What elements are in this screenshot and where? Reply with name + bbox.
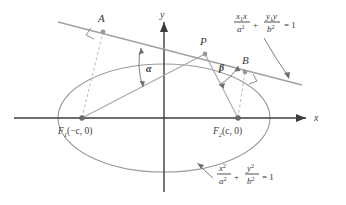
point-b-dot bbox=[243, 70, 248, 75]
perpendicular-f2-b bbox=[238, 72, 245, 118]
focus-f1-dot bbox=[79, 115, 84, 120]
focus-f1-label: F1(−c, 0) bbox=[57, 126, 92, 138]
ellipse-den1-sup: 2 bbox=[224, 176, 227, 182]
ellipse-den2-sup: 2 bbox=[252, 176, 255, 182]
ellipse-eq-equals: = 1 bbox=[262, 172, 274, 182]
tangent-line bbox=[58, 22, 302, 85]
ellipse-eq-denominator-2: b2 bbox=[247, 176, 255, 186]
x-axis-label: x bbox=[313, 112, 319, 123]
tangent-equation-leader bbox=[264, 38, 288, 76]
point-a-dot bbox=[101, 30, 106, 35]
point-b-label: B bbox=[242, 54, 249, 66]
tangent-num1-x: x bbox=[242, 11, 247, 21]
tangent-eq-plus: + bbox=[253, 20, 258, 30]
tangent-eq-denominator-2: b2 bbox=[267, 24, 275, 34]
ellipse-eq-numerator-1: x2 bbox=[218, 163, 226, 173]
focus-f2-label: F2(c, 0) bbox=[212, 126, 242, 138]
focal-radius-f1-p bbox=[82, 54, 205, 118]
focus-f2-coords: (c, 0) bbox=[222, 126, 242, 137]
tangent-eq-equals: = 1 bbox=[284, 20, 296, 30]
ellipse-eq-plus: + bbox=[234, 172, 239, 182]
y-axis-label: y bbox=[159, 9, 165, 20]
angle-beta-label: β bbox=[218, 62, 225, 73]
angle-alpha-arrowhead-top bbox=[139, 48, 145, 55]
tangent-eq-numerator-1: x1x bbox=[235, 11, 247, 22]
tangent-den1-sup: 2 bbox=[242, 24, 245, 30]
ellipse-num2-sup: 2 bbox=[251, 163, 254, 169]
point-a-label: A bbox=[97, 12, 105, 24]
y-axis-arrowhead bbox=[160, 22, 168, 32]
point-p-label: P bbox=[199, 35, 207, 47]
focus-f1-coords: (−c, 0) bbox=[67, 126, 92, 137]
x-axis-arrowhead bbox=[296, 114, 306, 122]
angle-alpha-label: α bbox=[146, 63, 152, 74]
ellipse-eq-numerator-2: y2 bbox=[246, 163, 254, 173]
tangent-equation-leader-arrowhead bbox=[284, 72, 290, 79]
right-angle-marker-b bbox=[249, 74, 257, 84]
ellipse-tangent-diagram: x y α β A B P F1(−c, 0) F2(c, 0) x1x bbox=[0, 0, 346, 205]
ellipse-equation: x2 a2 + y2 b2 = 1 bbox=[217, 163, 274, 186]
tangent-equation: x1x a2 + y1y b2 = 1 bbox=[234, 11, 296, 34]
focus-f2-dot bbox=[235, 115, 240, 120]
tangent-den2-sup: 2 bbox=[272, 24, 275, 30]
tangent-num2-y: y bbox=[272, 11, 277, 21]
tangent-eq-numerator-2: y1y bbox=[265, 11, 277, 22]
ellipse-num1-sup: 2 bbox=[223, 163, 226, 169]
ellipse-eq-denominator-1: a2 bbox=[219, 176, 227, 186]
tangent-eq-denominator-1: a2 bbox=[237, 24, 245, 34]
point-p-dot bbox=[203, 52, 208, 57]
